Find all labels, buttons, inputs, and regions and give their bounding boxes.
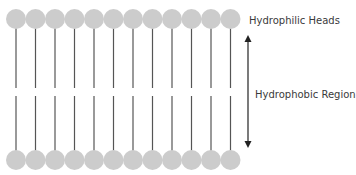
lipid-head bbox=[182, 150, 202, 170]
hydrophilic-heads-label: Hydrophilic Heads bbox=[249, 16, 340, 26]
lipid-head bbox=[65, 150, 85, 170]
top-leaflet-heads bbox=[6, 9, 241, 29]
lipid-head bbox=[143, 9, 163, 29]
double-arrow-icon bbox=[245, 35, 252, 148]
bottom-leaflet-heads bbox=[6, 150, 241, 170]
lipid-head bbox=[45, 9, 65, 29]
lipid-head bbox=[6, 150, 26, 170]
lipid-head bbox=[104, 9, 124, 29]
arrow-down-head bbox=[245, 141, 252, 148]
lipid-head bbox=[45, 150, 65, 170]
arrow-up-head bbox=[245, 35, 252, 42]
lipid-head bbox=[26, 9, 46, 29]
top-leaflet-tails bbox=[16, 19, 231, 88]
lipid-head bbox=[221, 150, 241, 170]
lipid-head bbox=[201, 150, 221, 170]
lipid-head bbox=[84, 9, 104, 29]
lipid-head bbox=[182, 9, 202, 29]
lipid-head bbox=[123, 150, 143, 170]
lipid-head bbox=[123, 9, 143, 29]
lipid-head bbox=[84, 150, 104, 170]
lipid-head bbox=[201, 9, 221, 29]
lipid-head bbox=[162, 150, 182, 170]
lipid-head bbox=[104, 150, 124, 170]
lipid-head bbox=[143, 150, 163, 170]
lipid-head bbox=[26, 150, 46, 170]
bottom-leaflet-tails bbox=[16, 96, 231, 160]
lipid-head bbox=[65, 9, 85, 29]
lipid-head bbox=[162, 9, 182, 29]
hydrophobic-region-label: Hydrophobic Region bbox=[255, 90, 356, 100]
lipid-head bbox=[221, 9, 241, 29]
lipid-head bbox=[6, 9, 26, 29]
